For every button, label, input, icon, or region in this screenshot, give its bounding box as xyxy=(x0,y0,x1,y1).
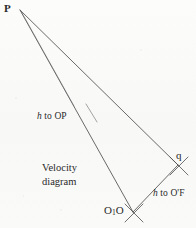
point-label-o1o: O1O xyxy=(104,205,124,217)
annotation-left-body: to OP xyxy=(42,111,67,121)
caption-line-2: diagram xyxy=(42,175,77,189)
caption-line-1: Velocity xyxy=(42,161,77,175)
annotation-h-to-of: h to O'F xyxy=(153,189,185,199)
annotation-h-to-op: h to OP xyxy=(37,112,67,122)
tick-near-op-label xyxy=(86,104,97,122)
velocity-diagram-figure: P q O1O h to OP h to O'F Velocity diagra… xyxy=(0,0,196,228)
origin-letter: O xyxy=(104,204,112,216)
tick-at-o1o-icon xyxy=(125,204,143,222)
point-label-q: q xyxy=(176,150,182,161)
point-label-p: P xyxy=(4,3,11,14)
edge-p-to-q xyxy=(20,10,178,165)
edge-apex-construction xyxy=(21,11,74,106)
annotation-right-body: to O'F xyxy=(158,188,185,198)
figure-caption: Velocity diagram xyxy=(42,161,77,189)
origin-second-letter: O xyxy=(116,204,124,216)
